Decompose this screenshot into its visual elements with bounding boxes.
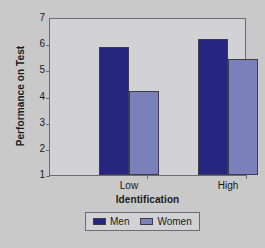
- y-axis-tick-label: 1: [30, 168, 45, 182]
- y-axis-tick-mark: [46, 71, 50, 72]
- y-axis-tick-mark: [46, 45, 50, 46]
- bar-women-low: [129, 91, 159, 175]
- bar-chart-figure: Performance on Test 1234567 LowHigh Iden…: [0, 0, 265, 248]
- y-axis-tick-label: 5: [30, 63, 45, 77]
- legend-swatch-men: [93, 218, 106, 225]
- y-axis-tick-mark: [46, 150, 50, 151]
- y-axis-tick-label: 6: [30, 37, 45, 51]
- y-axis-tick-label: 4: [30, 90, 45, 104]
- bar-men-low: [99, 47, 129, 175]
- legend-item-men: Men: [93, 216, 129, 227]
- x-axis-tick-label: Low: [97, 179, 161, 193]
- y-axis-title: Performance on Test: [12, 16, 30, 176]
- y-axis-tick-mark: [46, 176, 50, 177]
- y-axis-tick-label: 2: [30, 142, 45, 156]
- y-axis-tick-label: 7: [30, 11, 45, 25]
- legend-swatch-women: [140, 218, 153, 225]
- x-axis-tick-labels: LowHigh: [49, 179, 246, 193]
- bar-group: [99, 19, 160, 175]
- legend-item-women: Women: [140, 216, 191, 227]
- bar-women-high: [228, 59, 258, 175]
- chart-legend: MenWomen: [85, 212, 200, 231]
- y-axis-tick-mark: [46, 124, 50, 125]
- x-axis-title: Identification: [49, 193, 246, 207]
- y-axis-tick-mark: [46, 98, 50, 99]
- bar-men-high: [198, 39, 228, 175]
- y-axis-tick-label: 3: [30, 116, 45, 130]
- plot-area: [49, 18, 246, 176]
- x-axis-tick-label: High: [196, 179, 260, 193]
- bar-group: [198, 19, 259, 175]
- legend-label: Women: [157, 216, 191, 227]
- legend-label: Men: [110, 216, 129, 227]
- y-axis-tick-labels: 1234567: [30, 11, 45, 183]
